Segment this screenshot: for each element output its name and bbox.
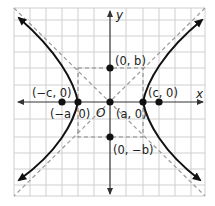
point-origin xyxy=(106,98,113,105)
label-c-0: (c, 0) xyxy=(148,86,178,100)
origin-label: O xyxy=(96,106,105,120)
point-0-b xyxy=(106,64,113,71)
point-neg-a-0 xyxy=(74,98,81,105)
point-0-neg-b xyxy=(106,133,113,140)
label-neg-a-0: (−a, 0) xyxy=(50,107,90,121)
x-axis-label: x xyxy=(195,87,204,101)
label-neg-c-0: (−c, 0) xyxy=(32,86,72,100)
y-axis-label: y xyxy=(115,8,124,22)
point-a-0 xyxy=(139,98,146,105)
hyperbola-diagram: y x O (0, b) (0, −b) (−c, 0) (c, 0) (−a,… xyxy=(0,0,215,206)
label-0-neg-b: (0, −b) xyxy=(113,143,154,157)
label-0-b: (0, b) xyxy=(115,54,146,68)
label-a-0: (a, 0) xyxy=(116,107,147,121)
